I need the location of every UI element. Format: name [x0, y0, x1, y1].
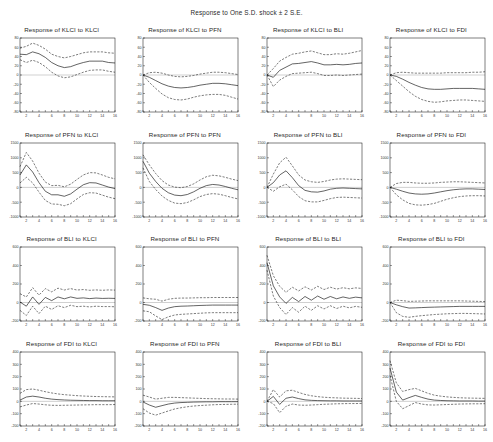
y-tick-label: 40: [15, 55, 19, 59]
x-tick-label: 4: [161, 323, 163, 327]
y-tick-label: 400: [259, 350, 265, 354]
y-tick-label: 0: [263, 185, 265, 189]
x-tick-label: 10: [198, 114, 202, 118]
y-tick-label: 200: [13, 375, 19, 379]
x-tick-label: 8: [63, 218, 65, 222]
x-tick-label: 16: [236, 427, 240, 431]
irf-panel: Response of FDI to FDI4003002001000-100-…: [370, 338, 493, 442]
x-tick-label: 10: [75, 218, 79, 222]
y-tick-label: -500: [11, 200, 18, 204]
axis-frame: [267, 352, 362, 426]
panel-title: Response of BLI to FDI: [370, 235, 493, 242]
axis-frame: [143, 143, 238, 217]
y-tick-label: -200: [135, 424, 142, 428]
plot-area: 6004002000-200246810121416: [20, 247, 115, 321]
y-tick-label: 0: [140, 73, 142, 77]
y-tick-label: -100: [381, 412, 388, 416]
plot-svg: 6004002000-200246810121416: [390, 247, 485, 321]
plot-area: 6004002000-200246810121416: [390, 247, 485, 321]
irf-panel: Response of KLCI to BLI806040200-20-40-6…: [247, 24, 370, 129]
series-lower_2se: [267, 184, 362, 202]
plot-svg: 150010005000-500-1000246810121416: [143, 143, 238, 217]
x-tick-label: 12: [88, 323, 92, 327]
y-tick-label: -20: [260, 83, 265, 87]
y-tick-label: 400: [13, 264, 19, 268]
y-tick-label: 80: [15, 36, 19, 40]
series-response: [143, 161, 238, 195]
x-tick-label: 12: [211, 114, 215, 118]
x-tick-label: 12: [88, 218, 92, 222]
series-response: [20, 396, 115, 401]
plot-svg: 4003002001000-100-200246810121416: [20, 352, 115, 426]
y-tick-label: -200: [381, 424, 388, 428]
series-upper_2se: [267, 50, 362, 75]
series-upper_2se: [267, 389, 362, 401]
series-upper_2se: [267, 255, 362, 292]
y-tick-label: 1000: [134, 156, 142, 160]
series-upper_2se: [20, 152, 115, 186]
y-tick-label: 400: [259, 264, 265, 268]
x-tick-label: 8: [63, 323, 65, 327]
irf-panel: Response of KLCI to FDI806040200-20-40-6…: [370, 24, 493, 129]
y-tick-label: -1000: [9, 215, 18, 219]
axis-frame: [20, 352, 115, 426]
x-tick-label: 10: [445, 323, 449, 327]
y-tick-label: 0: [17, 185, 19, 189]
x-tick-label: 12: [211, 427, 215, 431]
irf-panel: Response of PFN to KLCI150010005000-500-…: [0, 129, 123, 234]
y-tick-label: 80: [261, 36, 265, 40]
panel-title: Response of PFN to BLI: [247, 131, 370, 138]
y-tick-label: 100: [259, 387, 265, 391]
plot-svg: 806040200-20-40-60-80246810121416: [390, 38, 485, 112]
y-tick-label: 0: [263, 301, 265, 305]
x-tick-label: 6: [297, 427, 299, 431]
x-tick-label: 2: [25, 114, 27, 118]
y-tick-label: 0: [140, 399, 142, 403]
y-tick-label: 600: [382, 245, 388, 249]
series-upper_2se: [390, 181, 485, 187]
x-tick-label: 14: [347, 114, 351, 118]
irf-panel: Response of BLI to FDI6004002000-2002468…: [370, 233, 493, 338]
y-tick-label: 300: [13, 362, 19, 366]
x-tick-label: 8: [310, 427, 312, 431]
x-tick-label: 10: [75, 427, 79, 431]
x-tick-label: 12: [334, 427, 338, 431]
x-tick-label: 16: [113, 114, 117, 118]
x-tick-label: 4: [408, 427, 410, 431]
panel-title: Response of KLCI to PFN: [123, 26, 246, 33]
series-response: [143, 304, 238, 310]
x-tick-label: 6: [297, 323, 299, 327]
x-tick-label: 6: [420, 114, 422, 118]
x-tick-label: 8: [433, 323, 435, 327]
x-tick-label: 8: [187, 427, 189, 431]
y-tick-label: 100: [136, 387, 142, 391]
y-tick-label: -1000: [379, 215, 388, 219]
series-upper_2se: [267, 157, 362, 187]
series-response: [20, 164, 115, 195]
plot-area: 150010005000-500-1000246810121416: [20, 143, 115, 217]
y-tick-label: 1000: [257, 156, 265, 160]
x-tick-label: 16: [360, 427, 364, 431]
y-tick-label: 300: [136, 362, 142, 366]
panel-title: Response of BLI to KLCI: [0, 235, 123, 242]
x-tick-label: 16: [113, 323, 117, 327]
y-tick-label: 20: [261, 64, 265, 68]
panel-title: Response of KLCI to KLCI: [0, 26, 123, 33]
series-upper_2se: [390, 300, 485, 302]
x-tick-label: 14: [470, 323, 474, 327]
x-tick-label: 16: [360, 323, 364, 327]
axis-frame: [390, 352, 485, 426]
x-tick-label: 12: [211, 218, 215, 222]
x-tick-label: 16: [236, 218, 240, 222]
y-tick-label: -200: [381, 319, 388, 323]
x-tick-label: 6: [420, 323, 422, 327]
series-response: [20, 52, 115, 68]
x-tick-label: 6: [51, 114, 53, 118]
x-tick-label: 4: [285, 323, 287, 327]
x-tick-label: 2: [395, 114, 397, 118]
y-tick-label: 1500: [11, 141, 19, 145]
plot-svg: 150010005000-500-1000246810121416: [20, 143, 115, 217]
y-tick-label: 1500: [134, 141, 142, 145]
y-tick-label: 60: [261, 46, 265, 50]
plot-area: 4003002001000-100-200246810121416: [390, 352, 485, 426]
